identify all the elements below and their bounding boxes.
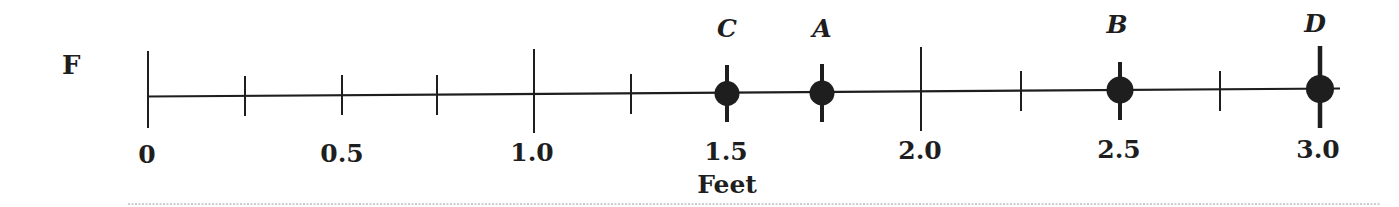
point-label-a: A — [812, 14, 831, 43]
point-label-d: D — [1304, 9, 1326, 38]
tick-label-1-5: 1.5 — [704, 137, 748, 166]
tick-label-2-5: 2.5 — [1097, 135, 1141, 164]
point-marker-d — [1306, 46, 1334, 128]
tick-label-3-0: 3.0 — [1296, 135, 1340, 164]
major-ticks — [148, 47, 921, 133]
tick-label-0: 0 — [138, 140, 155, 169]
tick-label-1-0: 1.0 — [510, 138, 554, 167]
tick-label-0-5: 0.5 — [320, 139, 364, 168]
panel-label: F — [62, 50, 80, 80]
point-marker-b — [1107, 62, 1134, 120]
point-marker-c — [715, 65, 740, 122]
axis-line — [148, 89, 1340, 97]
point-label-b: B — [1106, 10, 1127, 39]
number-line-figure: F C A B D 0 0.5 1.0 1.5 2.0 2.5 3.0 Feet — [0, 0, 1399, 207]
point-marker-a — [810, 64, 835, 122]
tick-label-2-0: 2.0 — [898, 136, 942, 165]
axis-title: Feet — [697, 170, 757, 199]
point-label-c: C — [717, 14, 737, 43]
